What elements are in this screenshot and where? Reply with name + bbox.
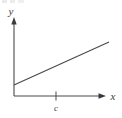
tick-label-c: c: [54, 103, 58, 113]
x-axis-arrow-icon: [99, 93, 107, 99]
y-axis-label: y: [8, 5, 14, 17]
plotted-line: [14, 42, 109, 85]
x-axis-label: x: [110, 90, 116, 102]
y-axis-arrow-icon: [11, 17, 16, 25]
line-graph-figure: y x c: [0, 0, 122, 118]
graph-canvas: y x c: [0, 0, 122, 118]
